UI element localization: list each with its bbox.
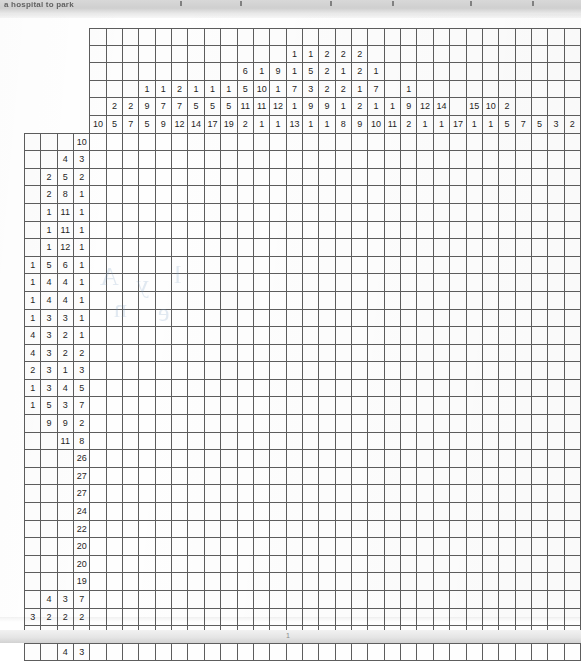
grid-cell[interactable] [548,168,564,186]
grid-cell[interactable] [384,274,400,292]
grid-cell[interactable] [531,168,547,186]
grid-cell[interactable] [319,555,335,573]
grid-cell[interactable] [237,133,253,151]
grid-cell[interactable] [335,467,351,485]
grid-cell[interactable] [531,133,547,151]
grid-cell[interactable] [188,485,204,503]
grid-cell[interactable] [483,415,499,433]
grid-cell[interactable] [221,555,237,573]
grid-cell[interactable] [417,221,433,239]
grid-cell[interactable] [450,450,466,468]
grid-cell[interactable] [221,362,237,380]
grid-cell[interactable] [466,151,482,169]
grid-cell[interactable] [139,291,155,309]
grid-cell[interactable] [401,168,417,186]
grid-cell[interactable] [564,467,580,485]
grid-cell[interactable] [106,239,122,257]
grid-cell[interactable] [188,239,204,257]
grid-row[interactable]: 4322 [25,344,581,362]
grid-cell[interactable] [155,520,171,538]
grid-cell[interactable] [335,221,351,239]
grid-cell[interactable] [335,520,351,538]
grid-cell[interactable] [401,555,417,573]
grid-cell[interactable] [417,397,433,415]
grid-cell[interactable] [548,520,564,538]
grid-cell[interactable] [188,327,204,345]
grid-cell[interactable] [548,309,564,327]
grid-cell[interactable] [450,203,466,221]
grid-cell[interactable] [499,467,515,485]
grid-cell[interactable] [90,327,106,345]
grid-cell[interactable] [417,520,433,538]
grid-cell[interactable] [106,573,122,591]
grid-cell[interactable] [401,573,417,591]
grid-cell[interactable] [564,432,580,450]
grid-cell[interactable] [204,503,220,521]
grid-cell[interactable] [368,520,384,538]
grid-cell[interactable] [483,450,499,468]
grid-cell[interactable] [253,538,269,556]
grid-cell[interactable] [204,591,220,609]
grid-cell[interactable] [564,309,580,327]
grid-cell[interactable] [90,555,106,573]
grid-cell[interactable] [531,520,547,538]
grid-cell[interactable] [515,467,531,485]
grid-cell[interactable] [90,397,106,415]
grid-cell[interactable] [450,133,466,151]
grid-cell[interactable] [499,309,515,327]
grid-cell[interactable] [188,432,204,450]
grid-cell[interactable] [303,168,319,186]
grid-cell[interactable] [499,221,515,239]
grid-cell[interactable] [401,520,417,538]
grid-cell[interactable] [483,274,499,292]
grid-cell[interactable] [499,591,515,609]
grid-cell[interactable] [303,151,319,169]
grid-cell[interactable] [106,168,122,186]
grid-cell[interactable] [123,379,139,397]
grid-cell[interactable] [483,467,499,485]
grid-cell[interactable] [270,309,286,327]
grid-cell[interactable] [253,555,269,573]
grid-cell[interactable] [515,168,531,186]
grid-cell[interactable] [417,432,433,450]
grid-row[interactable]: 4321 [25,327,581,345]
grid-cell[interactable] [368,151,384,169]
grid-cell[interactable] [433,274,449,292]
grid-cell[interactable] [499,168,515,186]
grid-cell[interactable] [564,203,580,221]
grid-cell[interactable] [531,256,547,274]
grid-cell[interactable] [106,274,122,292]
grid-cell[interactable] [515,186,531,204]
grid-cell[interactable] [433,344,449,362]
grid-cell[interactable] [368,503,384,521]
grid-cell[interactable] [270,643,286,661]
grid-cell[interactable] [548,467,564,485]
grid-cell[interactable] [286,291,302,309]
grid-cell[interactable] [90,133,106,151]
grid-row[interactable]: 437 [25,591,581,609]
grid-cell[interactable] [368,362,384,380]
grid-cell[interactable] [106,432,122,450]
grid-cell[interactable] [531,344,547,362]
grid-cell[interactable] [221,151,237,169]
grid-cell[interactable] [433,327,449,345]
grid-cell[interactable] [139,538,155,556]
grid-cell[interactable] [352,362,368,380]
grid-cell[interactable] [531,503,547,521]
grid-cell[interactable] [171,450,187,468]
grid-cell[interactable] [384,555,400,573]
grid-cell[interactable] [204,432,220,450]
grid-cell[interactable] [253,239,269,257]
grid-cell[interactable] [352,327,368,345]
grid-cell[interactable] [352,186,368,204]
grid-cell[interactable] [106,415,122,433]
grid-cell[interactable] [335,151,351,169]
grid-cell[interactable] [171,239,187,257]
grid-cell[interactable] [188,573,204,591]
grid-cell[interactable] [204,362,220,380]
grid-cell[interactable] [450,415,466,433]
grid-cell[interactable] [286,203,302,221]
grid-row[interactable]: 1331 [25,309,581,327]
grid-cell[interactable] [401,186,417,204]
grid-cell[interactable] [335,274,351,292]
